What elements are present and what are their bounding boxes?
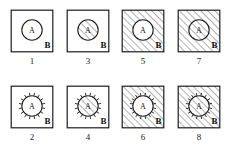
panel-2: AB2 bbox=[10, 85, 54, 143]
panel-3-drawing: AB bbox=[66, 9, 110, 53]
label-b: B bbox=[155, 116, 161, 126]
panel-6: AB6 bbox=[121, 85, 165, 143]
panel-caption: 7 bbox=[177, 56, 221, 67]
panel-6-drawing: AB bbox=[121, 85, 165, 129]
label-a: A bbox=[85, 26, 91, 35]
panel-caption: 2 bbox=[10, 132, 54, 143]
figure-eight-panel-set-diagram: AB1AB3AB5AB7AB2AB4AB6AB8 bbox=[0, 0, 233, 151]
label-b: B bbox=[44, 116, 50, 126]
label-b: B bbox=[211, 116, 217, 126]
panel-4-drawing: AB bbox=[66, 85, 110, 129]
label-b: B bbox=[44, 40, 50, 50]
label-a: A bbox=[85, 102, 91, 111]
panel-8: AB8 bbox=[177, 85, 221, 143]
label-b: B bbox=[211, 40, 217, 50]
panel-5: AB5 bbox=[121, 9, 165, 67]
panel-8-drawing: AB bbox=[177, 85, 221, 129]
panel-caption: 5 bbox=[121, 56, 165, 67]
label-a: A bbox=[196, 102, 202, 111]
panel-caption: 3 bbox=[66, 56, 110, 67]
label-a: A bbox=[196, 26, 202, 35]
panel-caption: 1 bbox=[10, 56, 54, 67]
panel-7-drawing: AB bbox=[177, 9, 221, 53]
label-b: B bbox=[155, 40, 161, 50]
panel-5-drawing: AB bbox=[121, 9, 165, 53]
panel-2-drawing: AB bbox=[10, 85, 54, 129]
label-a: A bbox=[140, 102, 146, 111]
panel-caption: 8 bbox=[177, 132, 221, 143]
label-b: B bbox=[100, 116, 106, 126]
panel-caption: 6 bbox=[121, 132, 165, 143]
label-a: A bbox=[29, 102, 35, 111]
panel-caption: 4 bbox=[66, 132, 110, 143]
label-a: A bbox=[29, 26, 35, 35]
panel-1-drawing: AB bbox=[10, 9, 54, 53]
panel-3: AB3 bbox=[66, 9, 110, 67]
label-b: B bbox=[100, 40, 106, 50]
panel-4: AB4 bbox=[66, 85, 110, 143]
panel-1: AB1 bbox=[10, 9, 54, 67]
label-a: A bbox=[140, 26, 146, 35]
panel-7: AB7 bbox=[177, 9, 221, 67]
